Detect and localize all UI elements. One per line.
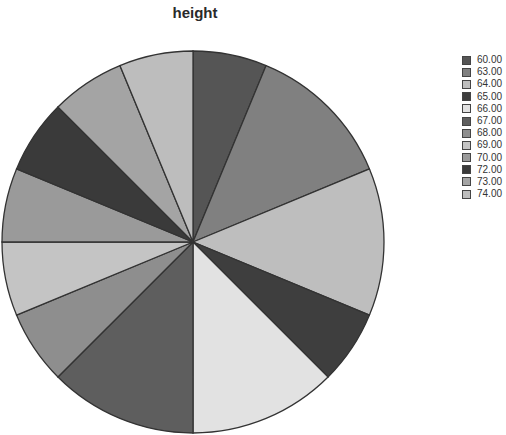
legend-swatch bbox=[462, 80, 471, 89]
legend-label: 65.00 bbox=[477, 91, 502, 103]
legend-item: 73.00 bbox=[462, 176, 502, 188]
legend-label: 63.00 bbox=[477, 66, 502, 78]
legend-swatch bbox=[462, 129, 471, 138]
legend-swatch bbox=[462, 177, 471, 186]
legend-item: 74.00 bbox=[462, 188, 502, 200]
legend-label: 72.00 bbox=[477, 164, 502, 176]
pie-chart bbox=[0, 0, 400, 435]
legend-label: 69.00 bbox=[477, 139, 502, 151]
legend-item: 68.00 bbox=[462, 127, 502, 139]
legend-label: 67.00 bbox=[477, 115, 502, 127]
legend-item: 60.00 bbox=[462, 54, 502, 66]
legend-item: 66.00 bbox=[462, 103, 502, 115]
legend-item: 65.00 bbox=[462, 91, 502, 103]
legend-swatch bbox=[462, 56, 471, 65]
legend-label: 70.00 bbox=[477, 152, 502, 164]
legend-swatch bbox=[462, 165, 471, 174]
pie-slices bbox=[2, 51, 384, 433]
legend-label: 68.00 bbox=[477, 127, 502, 139]
legend-label: 60.00 bbox=[477, 54, 502, 66]
legend-swatch bbox=[462, 68, 471, 77]
legend-item: 63.00 bbox=[462, 66, 502, 78]
legend-item: 70.00 bbox=[462, 152, 502, 164]
legend-swatch bbox=[462, 117, 471, 126]
legend-swatch bbox=[462, 92, 471, 101]
legend-label: 64.00 bbox=[477, 78, 502, 90]
legend-swatch bbox=[462, 104, 471, 113]
legend-item: 69.00 bbox=[462, 139, 502, 151]
legend-item: 64.00 bbox=[462, 78, 502, 90]
legend-item: 67.00 bbox=[462, 115, 502, 127]
legend-item: 72.00 bbox=[462, 164, 502, 176]
legend-swatch bbox=[462, 153, 471, 162]
legend-swatch bbox=[462, 141, 471, 150]
legend-label: 74.00 bbox=[477, 188, 502, 200]
legend: 60.0063.0064.0065.0066.0067.0068.0069.00… bbox=[462, 54, 502, 200]
legend-label: 66.00 bbox=[477, 103, 502, 115]
legend-label: 73.00 bbox=[477, 176, 502, 188]
legend-swatch bbox=[462, 190, 471, 199]
